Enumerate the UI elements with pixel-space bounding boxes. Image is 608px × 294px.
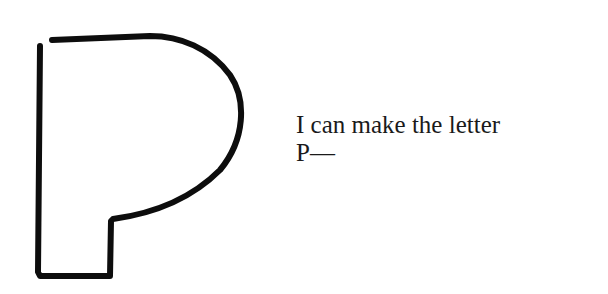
caption-text: I can make the letter P—	[296, 111, 500, 167]
caption-line-1: I can make the letter	[296, 111, 500, 139]
caption-line-2: P—	[296, 139, 500, 167]
letter-p-outline	[38, 36, 241, 276]
letter-p-drawing	[0, 0, 280, 294]
